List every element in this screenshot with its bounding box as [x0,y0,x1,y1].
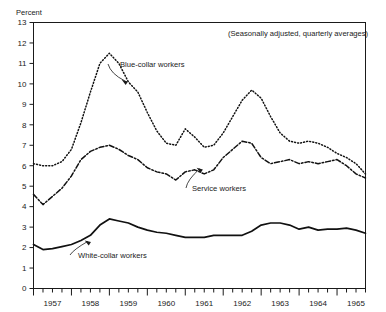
series-line-white-collar-workers [34,219,366,250]
x-axis-year-label: 1963 [271,299,289,308]
x-axis-year-label: 1961 [195,299,213,308]
y-tick-label: 9 [22,100,27,109]
x-axis-year-label: 1959 [119,299,137,308]
plot-frame [34,23,366,289]
x-axis-ticks [34,289,366,296]
x-axis-year-label: 1962 [233,299,251,308]
y-tick-label: 8 [22,121,27,130]
plot-border [34,23,366,289]
x-axis-year-label: 1965 [347,299,365,308]
y-tick-label: 10 [18,80,27,89]
x-axis-year-label: 1960 [157,299,175,308]
y-tick-label: 3 [22,223,27,232]
y-tick-label: 7 [22,141,27,150]
y-tick-label: 0 [22,284,27,293]
y-axis-title: Percent [16,8,43,17]
series-label-blue-collar-workers: Blue-collar workers [120,60,185,69]
y-tick-label: 6 [22,162,27,171]
series-label-service-workers: Service workers [192,184,246,193]
y-tick-label: 12 [18,39,27,48]
series-line-blue-collar-workers [34,53,366,174]
series-line-service-workers [34,141,366,204]
y-tick-label: 4 [22,202,27,211]
x-axis-year-labels: 195719581959196019611962196319641965 [44,299,366,308]
y-tick-label: 11 [18,59,27,68]
y-axis-title-group: Percent [16,8,43,17]
y-tick-label: 1 [22,264,27,273]
unemployment-rate-chart: Percent (Seasonally adjusted, quarterly … [0,0,386,312]
series-label-white-collar-workers: White-collar workers [78,251,147,260]
y-tick-label: 13 [18,18,27,27]
x-axis-year-label: 1958 [82,299,100,308]
y-tick-label: 2 [22,243,27,252]
x-axis-year-label: 1964 [309,299,327,308]
series-lines [34,53,366,249]
y-tick-label: 5 [22,182,27,191]
chart-subtitle-group: (Seasonally adjusted, quarterly averages… [228,29,369,38]
chart-subtitle: (Seasonally adjusted, quarterly averages… [228,29,369,38]
y-axis-ticks: 012345678910111213 [18,18,34,293]
x-axis-year-label: 1957 [44,299,62,308]
chart-canvas: Percent (Seasonally adjusted, quarterly … [0,0,386,312]
